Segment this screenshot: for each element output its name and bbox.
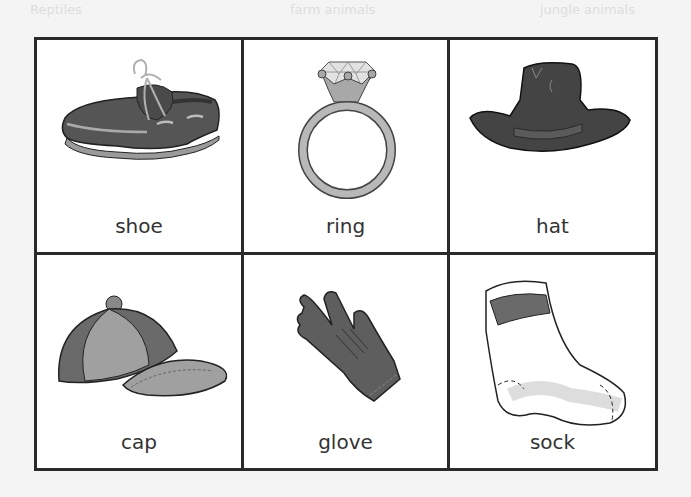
card-sock[interactable]: sock — [450, 255, 655, 468]
card-glove[interactable]: glove — [244, 255, 450, 468]
card-hat[interactable]: hat — [450, 40, 655, 255]
card-label: glove — [244, 430, 447, 454]
card-shoe[interactable]: shoe — [37, 40, 244, 255]
bleed-text-2: farm animals — [290, 2, 375, 17]
background-bleed-text: Reptiles farm animals jungle animals — [0, 2, 691, 22]
card-ring[interactable]: ring — [244, 40, 450, 255]
card-label: cap — [37, 430, 241, 454]
flashcard-grid: shoe ring hat — [34, 37, 658, 471]
card-cap[interactable]: cap — [37, 255, 244, 468]
bleed-text-3: jungle animals — [540, 2, 635, 17]
card-label: ring — [244, 214, 447, 238]
bleed-text-1: Reptiles — [30, 2, 82, 17]
card-label: shoe — [37, 214, 241, 238]
card-label: hat — [450, 214, 655, 238]
card-label: sock — [450, 430, 655, 454]
